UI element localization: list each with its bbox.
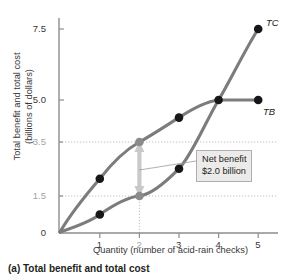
y-axis-label: Total benefit and total cost (billions o… xyxy=(12,37,35,177)
callout-leader-line xyxy=(139,161,196,170)
y-tick-label-7-5: 7.5 xyxy=(14,23,46,34)
tb-curve-label: TB xyxy=(263,106,275,117)
x-axis-label: Quantity (number of acid-rain checks) xyxy=(58,245,283,255)
net-benefit-callout-line1: Net benefit xyxy=(202,154,246,166)
y-tick-label-1-5: 1.5 xyxy=(14,190,46,201)
net-benefit-callout: Net benefit $2.0 billion xyxy=(196,150,252,182)
y-axis-label-line2: (billions of dollars) xyxy=(23,37,35,177)
y-tick-label-0: 0 xyxy=(30,227,46,238)
chart-figure: 7.5 5.0 3.5 1.5 0 1 2 3 4 5 Total benefi… xyxy=(0,0,293,277)
net-benefit-arrow xyxy=(134,141,144,197)
figure-caption: (a) Total benefit and total cost xyxy=(8,263,149,274)
y-axis-label-line1: Total benefit and total cost xyxy=(12,37,24,177)
y-axis-ticks xyxy=(59,29,64,196)
net-benefit-callout-line2: $2.0 billion xyxy=(202,166,246,178)
tc-curve-label: TC xyxy=(266,17,279,28)
x-axis-ticks xyxy=(100,233,258,238)
